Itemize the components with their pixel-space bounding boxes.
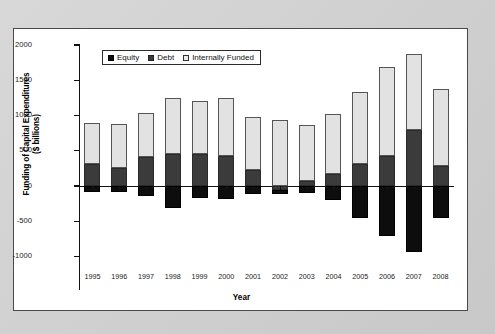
bar-segment-internally-funded [433, 89, 449, 166]
x-tick-2003 [307, 186, 308, 190]
bar-segment-internally-funded [272, 120, 288, 186]
bar-segment-debt [379, 156, 395, 186]
y-axis-title-line2: ($ billions) [32, 54, 42, 214]
bar-segment-debt [218, 156, 234, 186]
bar-group[interactable] [218, 29, 234, 289]
x-tick-label-2004: 2004 [320, 272, 347, 281]
legend-item-equity: Equity [108, 53, 139, 62]
x-tick-label-2008: 2008 [427, 272, 454, 281]
bar-segment-debt [325, 174, 341, 186]
bar-group[interactable] [272, 29, 288, 289]
x-tick-2006 [387, 186, 388, 190]
bar-group[interactable] [138, 29, 154, 289]
y-tick-label-1000: 1000 [0, 111, 32, 119]
bar-segment-debt [245, 170, 261, 186]
x-axis-title: Year [14, 293, 469, 302]
x-tick-label-2001: 2001 [240, 272, 267, 281]
bar-segment-equity [406, 186, 422, 252]
y-tick-2000 [74, 44, 80, 45]
x-tick-1996 [119, 186, 120, 190]
y-tick--500 [74, 221, 80, 222]
x-tick-label-2002: 2002 [267, 272, 294, 281]
x-tick-label-2003: 2003 [293, 272, 320, 281]
x-tick-1995 [92, 186, 93, 190]
bar-segment-internally-funded [138, 113, 154, 157]
bar-group[interactable] [406, 29, 422, 289]
y-tick-1000 [74, 115, 80, 116]
bar-segment-internally-funded [165, 98, 181, 154]
legend-label-equity: Equity [117, 53, 139, 62]
bar-segment-debt [138, 157, 154, 186]
x-tick-label-1998: 1998 [159, 272, 186, 281]
bar-segment-internally-funded [379, 67, 395, 155]
x-tick-label-2007: 2007 [400, 272, 427, 281]
bar-segment-internally-funded [245, 117, 261, 170]
x-tick-2007 [414, 186, 415, 190]
bar-group[interactable] [111, 29, 127, 289]
legend-swatch-internally-funded [183, 55, 189, 61]
legend-label-internally-funded: Internally Funded [192, 53, 254, 62]
legend-label-debt: Debt [157, 53, 174, 62]
x-tick-2004 [333, 186, 334, 190]
bar-group[interactable] [192, 29, 208, 289]
bar-segment-internally-funded [218, 98, 234, 157]
bar-segment-internally-funded [299, 125, 315, 181]
bar-segment-debt [111, 168, 127, 186]
x-tick-2002 [280, 186, 281, 190]
y-tick-label-2000: 2000 [0, 41, 32, 49]
y-axis-line [79, 45, 80, 290]
bar-segment-internally-funded [111, 124, 127, 168]
legend-item-internally-funded: Internally Funded [183, 53, 254, 62]
y-tick-label--1000: -1000 [0, 252, 32, 260]
bar-segment-equity [352, 186, 368, 218]
y-tick-500 [74, 150, 80, 151]
x-tick-1999 [200, 186, 201, 190]
bar-group[interactable] [165, 29, 181, 289]
bar-group[interactable] [352, 29, 368, 289]
bar-segment-internally-funded [325, 114, 341, 173]
x-tick-2005 [360, 186, 361, 190]
bar-segment-internally-funded [192, 101, 208, 154]
bar-segment-debt [406, 130, 422, 186]
bar-group[interactable] [433, 29, 449, 289]
x-tick-label-2006: 2006 [374, 272, 401, 281]
image-background: Funding of Capital Expenditures ($ billi… [0, 0, 495, 334]
chart-legend: Equity Debt Internally Funded [102, 50, 261, 65]
x-tick-2000 [226, 186, 227, 190]
bar-segment-debt [165, 154, 181, 186]
bar-group[interactable] [325, 29, 341, 289]
y-tick-label--500: -500 [0, 217, 32, 225]
chart-panel: Funding of Capital Expenditures ($ billi… [13, 28, 468, 311]
legend-swatch-debt [148, 55, 154, 61]
zero-baseline [79, 186, 454, 187]
bar-group[interactable] [245, 29, 261, 289]
plot-area: Funding of Capital Expenditures ($ billi… [14, 29, 469, 312]
legend-swatch-equity [108, 55, 114, 61]
x-tick-label-2000: 2000 [213, 272, 240, 281]
x-tick-label-1999: 1999 [186, 272, 213, 281]
legend-item-debt: Debt [148, 53, 174, 62]
y-tick--1000 [74, 256, 80, 257]
x-tick-label-2005: 2005 [347, 272, 374, 281]
bar-group[interactable] [379, 29, 395, 289]
x-tick-label-1997: 1997 [133, 272, 160, 281]
bar-segment-debt [84, 164, 100, 186]
bar-group[interactable] [84, 29, 100, 289]
bar-segment-debt [352, 164, 368, 186]
bar-segment-equity [379, 186, 395, 236]
x-tick-2001 [253, 186, 254, 190]
y-tick-1500 [74, 80, 80, 81]
bar-segment-internally-funded [84, 123, 100, 165]
x-tick-1998 [173, 186, 174, 190]
bar-segment-debt [433, 166, 449, 186]
y-tick-label-500: 500 [0, 146, 32, 154]
x-tick-1997 [146, 186, 147, 190]
x-tick-2008 [441, 186, 442, 190]
bar-segment-internally-funded [406, 54, 422, 129]
bar-segment-internally-funded [352, 92, 368, 165]
y-tick-label-1500: 1500 [0, 76, 32, 84]
y-tick-0 [74, 185, 80, 186]
bar-group[interactable] [299, 29, 315, 289]
bar-segment-equity [433, 186, 449, 218]
bar-segment-equity [272, 190, 288, 194]
